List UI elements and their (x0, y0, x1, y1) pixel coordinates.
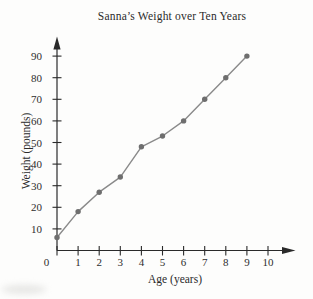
y-tick-label: 80 (31, 72, 43, 84)
y-tick-label: 70 (31, 93, 43, 105)
x-tick-label: 6 (181, 256, 187, 268)
x-axis-label: Age (years) (115, 273, 235, 285)
x-tick-label: 7 (202, 256, 208, 268)
x-axis-arrowhead-icon (282, 247, 296, 254)
data-point (244, 53, 249, 58)
y-tick-label: 50 (31, 137, 43, 149)
x-tick-label: 0 (44, 256, 50, 268)
x-tick-label: 5 (160, 256, 166, 268)
x-tick-label: 10 (263, 256, 275, 268)
data-point (223, 75, 228, 80)
line-chart-plot: 102030405060708090012345678910 (0, 0, 313, 299)
y-tick-label: 20 (31, 201, 43, 213)
data-point (181, 118, 186, 123)
data-point (97, 189, 102, 194)
y-tick-label: 60 (31, 115, 43, 127)
y-tick-label: 10 (31, 223, 43, 235)
data-series-line (57, 56, 247, 237)
x-tick-label: 9 (244, 256, 250, 268)
data-point (160, 133, 165, 138)
data-point (75, 209, 80, 214)
x-tick-label: 2 (96, 256, 102, 268)
x-tick-label: 4 (139, 256, 145, 268)
data-point (139, 144, 144, 149)
scan-artifact (2, 285, 46, 294)
x-tick-label: 1 (75, 256, 81, 268)
x-tick-label: 3 (118, 256, 124, 268)
y-tick-label: 30 (31, 180, 43, 192)
y-axis-label: Weight (pounds) (20, 113, 32, 190)
data-point (54, 235, 59, 240)
x-tick-label: 8 (223, 256, 229, 268)
data-point (118, 174, 123, 179)
y-axis-arrowhead-icon (53, 37, 60, 50)
y-tick-label: 90 (31, 50, 43, 62)
y-tick-label: 40 (31, 158, 43, 170)
data-point (202, 97, 207, 102)
